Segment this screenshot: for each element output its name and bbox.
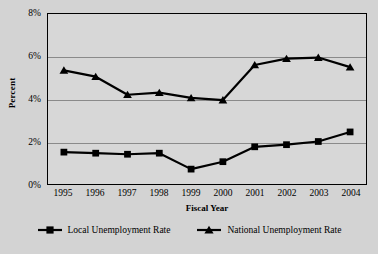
x-axis-tick-label: 2004 [342, 188, 361, 198]
x-axis-tick-label: 1999 [182, 188, 201, 198]
x-axis-tick-label: 2000 [214, 188, 233, 198]
y-axis-tick-label: 4% [0, 94, 45, 104]
legend-label: Local Unemployment Rate [68, 225, 171, 235]
series-national [60, 54, 355, 104]
data-point-square [251, 143, 258, 150]
x-axis-tick-labels: 1995199619971998199920002001200220032004 [47, 188, 367, 202]
x-axis-tick-label: 1995 [54, 188, 73, 198]
chart-legend: Local Unemployment RateNational Unemploy… [0, 224, 378, 236]
data-point-square [220, 158, 227, 165]
legend-square-icon [37, 224, 63, 236]
y-axis-tick-labels: 0%2%4%6%8% [0, 0, 45, 254]
legend-triangle-icon [196, 224, 222, 236]
y-axis-tick-label: 8% [0, 8, 45, 18]
plot-area [47, 13, 367, 185]
series-line [64, 58, 350, 101]
data-point-square [124, 151, 131, 158]
x-axis-tick-label: 1997 [118, 188, 137, 198]
x-axis-tick-label: 1998 [150, 188, 169, 198]
plot-svg [48, 14, 366, 184]
x-axis-tick-label: 2003 [310, 188, 329, 198]
series-local [61, 129, 354, 173]
y-axis-tick-label: 6% [0, 51, 45, 61]
x-axis-tick-label: 1996 [86, 188, 105, 198]
data-point-square [347, 129, 354, 136]
data-point-square [315, 138, 322, 145]
data-point-square [156, 150, 163, 157]
data-point-square [283, 141, 290, 148]
data-point-square [188, 166, 195, 173]
x-axis-title: Fiscal Year [47, 203, 367, 213]
legend-label: National Unemployment Rate [227, 225, 341, 235]
legend-item[interactable]: Local Unemployment Rate [37, 224, 171, 236]
x-axis-tick-label: 2002 [278, 188, 297, 198]
y-axis-tick-label: 2% [0, 137, 45, 147]
data-point-square [92, 150, 99, 157]
unemployment-rate-line-chart: Percent 0%2%4%6%8% 199519961997199819992… [0, 0, 378, 254]
data-point-square [61, 149, 68, 156]
series-line [64, 132, 350, 169]
x-axis-tick-label: 2001 [246, 188, 265, 198]
y-axis-tick-label: 0% [0, 180, 45, 190]
legend-item[interactable]: National Unemployment Rate [196, 224, 341, 236]
